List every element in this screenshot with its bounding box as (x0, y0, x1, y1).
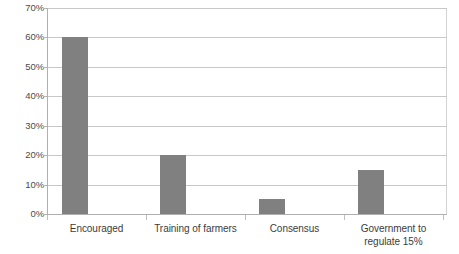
x-category-label-government: Government to regulate 15% (344, 222, 443, 248)
y-tick-label: 10% (2, 180, 44, 190)
x-category-line1: Government to (361, 223, 427, 234)
x-category-label-consensus: Consensus (245, 222, 344, 235)
x-axis-category-labels: Encouraged Training of farmers Consensus… (47, 222, 447, 254)
y-tick-label: 70% (2, 3, 44, 13)
y-tick-label: 50% (2, 62, 44, 72)
x-category-line1: Training of farmers (154, 223, 237, 234)
bar-consensus (259, 199, 285, 214)
x-category-line2: regulate 15% (364, 236, 422, 247)
x-category-line1: Consensus (270, 223, 320, 234)
bar-government (358, 170, 384, 214)
y-tick-label: 0% (2, 209, 44, 219)
plot-area (47, 8, 447, 214)
x-tick (344, 215, 345, 220)
x-category-label-encouraged: Encouraged (47, 222, 146, 235)
y-tick-label: 30% (2, 121, 44, 131)
gridline-50 (47, 67, 447, 68)
bar-chart: 70% 60% 50% 40% 30% 20% 10% 0% Encourage… (0, 0, 459, 254)
x-category-label-training: Training of farmers (146, 222, 245, 235)
gridline-70 (47, 8, 447, 9)
y-tick-label: 40% (2, 91, 44, 101)
x-tick (47, 215, 48, 220)
y-tick-label: 20% (2, 150, 44, 160)
gridline-40 (47, 96, 447, 97)
gridline-10 (47, 185, 447, 186)
gridline-30 (47, 126, 447, 127)
y-axis-tick-labels: 70% 60% 50% 40% 30% 20% 10% 0% (0, 0, 44, 254)
gridline-60 (47, 37, 447, 38)
x-tick (146, 215, 147, 220)
x-tick (443, 215, 444, 220)
bar-training (160, 155, 186, 214)
x-tick (245, 215, 246, 220)
y-axis-line (47, 8, 48, 215)
y-tick-label: 60% (2, 32, 44, 42)
gridline-20 (47, 155, 447, 156)
bar-encouraged (62, 37, 88, 214)
x-category-line1: Encouraged (70, 223, 123, 234)
x-axis-tick-marks (47, 215, 447, 220)
